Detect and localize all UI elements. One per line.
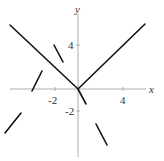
segment-4: [5, 113, 21, 133]
tick-label-y-neg2: -2: [65, 105, 74, 117]
y-axis-label: y: [74, 3, 80, 15]
chart: y x -2 4 4 -2: [0, 0, 164, 161]
graph-lines: [5, 24, 145, 145]
segment-2: [32, 71, 42, 91]
segment-5: [96, 124, 107, 145]
tick-label-x-4: 4: [120, 94, 126, 106]
tick-label-y-4: 4: [68, 39, 74, 51]
axes: [10, 14, 146, 157]
x-axis-label: x: [148, 83, 154, 95]
segment-1: [54, 45, 63, 62]
abs-value-graph: [10, 24, 145, 89]
segment-3: [78, 89, 86, 104]
tick-label-x-neg2: -2: [48, 94, 57, 106]
